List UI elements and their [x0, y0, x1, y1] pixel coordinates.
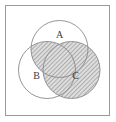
venn-diagram-canvas: A B C: [0, 0, 116, 122]
set-label-b: B: [33, 70, 40, 81]
set-label-c: C: [72, 70, 79, 81]
venn-diagram-figure: A B C: [0, 0, 116, 122]
set-label-a: A: [56, 29, 64, 40]
